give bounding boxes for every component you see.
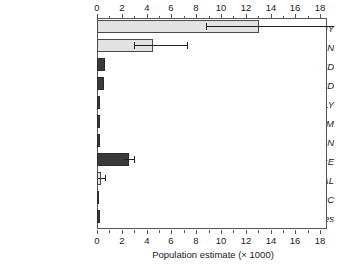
tick-top-16 xyxy=(295,14,296,18)
xtick-label-bottom-18: 18 xyxy=(308,235,332,246)
error-bar-germany xyxy=(206,26,334,27)
bar-italy xyxy=(97,96,100,109)
tick-bottom-0 xyxy=(97,230,98,234)
bar-sweden xyxy=(97,134,100,147)
xtick-label-bottom-8: 8 xyxy=(184,235,208,246)
tick-top-14 xyxy=(271,14,272,18)
tick-top-2 xyxy=(122,14,123,18)
xtick-label-top-4: 4 xyxy=(135,2,159,13)
tick-bottom-9 xyxy=(209,230,210,233)
tick-top-4 xyxy=(147,14,148,18)
xtick-label-top-16: 16 xyxy=(283,2,307,13)
tick-top-0 xyxy=(97,14,98,18)
tick-bottom-3 xyxy=(134,230,135,233)
tick-bottom-8 xyxy=(196,230,197,234)
error-bar-cap-portugal-high xyxy=(105,175,106,181)
tick-bottom-10 xyxy=(221,230,222,234)
tick-bottom-1 xyxy=(109,230,110,233)
tick-top-6 xyxy=(171,14,172,18)
tick-bottom-11 xyxy=(233,230,234,233)
tick-bottom-4 xyxy=(147,230,148,234)
xtick-label-bottom-6: 6 xyxy=(159,235,183,246)
xtick-label-top-6: 6 xyxy=(159,2,183,13)
xtick-label-bottom-14: 14 xyxy=(259,235,283,246)
x-axis-title: Population estimate (× 1000) xyxy=(46,249,339,260)
tick-bottom-16 xyxy=(295,230,296,234)
xtick-label-top-12: 12 xyxy=(234,2,258,13)
tick-bottom-5 xyxy=(159,230,160,233)
xtick-label-top-18: 18 xyxy=(308,2,332,13)
tick-top-1 xyxy=(109,16,110,19)
xtick-label-bottom-16: 16 xyxy=(283,235,307,246)
xtick-label-bottom-0: 0 xyxy=(85,235,109,246)
xtick-label-top-2: 2 xyxy=(110,2,134,13)
tick-top-10 xyxy=(221,14,222,18)
tick-top-18 xyxy=(320,14,321,18)
tick-bottom-18 xyxy=(320,230,321,234)
tick-bottom-13 xyxy=(258,230,259,233)
tick-top-8 xyxy=(196,14,197,18)
bar-poland xyxy=(97,58,105,71)
tick-top-12 xyxy=(246,14,247,18)
tick-top-13 xyxy=(258,16,259,19)
xtick-label-top-10: 10 xyxy=(209,2,233,13)
error-bar-cap-france-high xyxy=(134,156,135,163)
tick-top-15 xyxy=(283,16,284,19)
tick-bottom-17 xyxy=(308,230,309,233)
xtick-label-bottom-12: 12 xyxy=(234,235,258,246)
tick-top-9 xyxy=(209,16,210,19)
tick-bottom-2 xyxy=(122,230,123,234)
tick-top-3 xyxy=(134,16,135,19)
error-bar-spain xyxy=(134,45,187,46)
xtick-label-top-8: 8 xyxy=(184,2,208,13)
bar-switzerland xyxy=(97,77,104,90)
tick-bottom-6 xyxy=(171,230,172,234)
tick-bottom-7 xyxy=(184,230,185,233)
error-bar-cap-spain-high xyxy=(187,42,188,49)
xtick-label-top-0: 0 xyxy=(85,2,109,13)
xtick-label-top-14: 14 xyxy=(259,2,283,13)
tick-top-5 xyxy=(159,16,160,19)
error-bar-cap-germany-low xyxy=(206,23,207,30)
tick-bottom-15 xyxy=(283,230,284,233)
tick-bottom-12 xyxy=(246,230,247,234)
bar-united-kingdom xyxy=(97,115,100,128)
xtick-label-bottom-4: 4 xyxy=(135,235,159,246)
tick-top-11 xyxy=(233,16,234,19)
tick-top-17 xyxy=(308,16,309,19)
xtick-label-bottom-2: 2 xyxy=(110,235,134,246)
xtick-label-bottom-10: 10 xyxy=(209,235,233,246)
bar-other-countries xyxy=(97,210,100,223)
tick-bottom-14 xyxy=(271,230,272,234)
error-bar-cap-spain-low xyxy=(134,42,135,49)
tick-top-7 xyxy=(184,16,185,19)
bar-czech-republic xyxy=(97,191,99,204)
